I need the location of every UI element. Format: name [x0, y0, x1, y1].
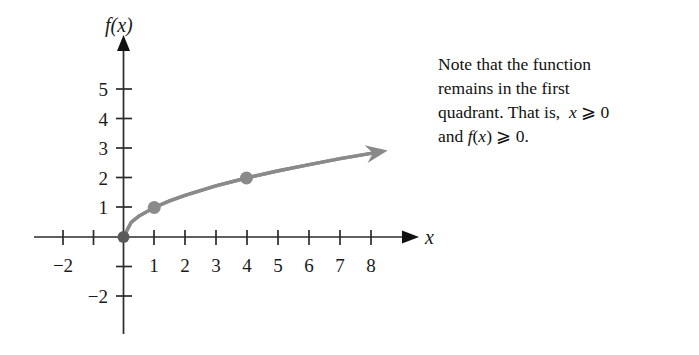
y-tick-label-2: 2 — [99, 168, 109, 189]
x-tick-label-4: 4 — [242, 255, 252, 276]
y-axis-label: f(x) — [105, 14, 133, 37]
x-axis-label: x — [424, 226, 434, 248]
note-line-3: quadrant. That is, x ⩾ 0 — [438, 100, 688, 124]
note-line-4: and f(x) ⩾ 0. — [438, 124, 688, 148]
sqrt-curve-points — [124, 152, 382, 238]
point-1-1-marker — [148, 201, 161, 214]
origin-point-marker — [118, 231, 130, 243]
y-tick-label-4: 4 — [99, 109, 109, 130]
x-axis-arrow-icon — [402, 231, 419, 244]
x-tick-label-6: 6 — [304, 255, 314, 276]
x-tick-label-8: 8 — [366, 255, 376, 276]
y-tick-label--2: −2 — [88, 286, 108, 307]
sqrt-curve — [124, 152, 382, 238]
note-line-1: Note that the function — [438, 52, 688, 76]
figure-page: −2 1 2 3 4 5 6 7 8 5 4 3 2 1 −2 f(x) x N… — [0, 0, 699, 355]
y-tick-label-3: 3 — [99, 138, 109, 159]
x-tick-label-7: 7 — [335, 255, 345, 276]
point-4-2-marker — [240, 172, 253, 185]
note-line-2: remains in the first — [438, 76, 688, 100]
x-tick-label-5: 5 — [273, 255, 283, 276]
y-axis-arrow-icon — [117, 35, 130, 51]
x-tick-label--2: −2 — [53, 255, 73, 276]
y-tick-label-1: 1 — [99, 197, 109, 218]
x-tick-label-1: 1 — [149, 255, 159, 276]
first-quadrant-note: Note that the function remains in the fi… — [438, 52, 688, 148]
x-tick-label-2: 2 — [180, 255, 190, 276]
x-tick-label-3: 3 — [211, 255, 221, 276]
y-tick-label-5: 5 — [99, 79, 109, 100]
